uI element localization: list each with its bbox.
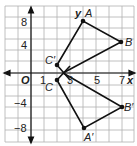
label-c: C — [45, 81, 53, 93]
coordinate-plane: 8 4 −4 −8 1 3 5 7 x y O A B C′ C B′ A′ — [0, 0, 137, 146]
point-a-prime — [82, 126, 87, 131]
label-a-prime: A′ — [83, 131, 94, 143]
y-tick-4: 4 — [21, 39, 27, 51]
label-c-prime: C′ — [45, 54, 56, 66]
origin-label: O — [21, 74, 30, 86]
triangle-abc — [57, 21, 121, 73]
label-a: A — [84, 7, 92, 19]
label-b-prime: B′ — [124, 101, 134, 113]
point-c-prime — [55, 63, 60, 68]
point-c — [55, 78, 60, 83]
y-tick-8: 8 — [21, 16, 27, 28]
x-axis-label: x — [126, 74, 134, 86]
y-tick-neg4: −4 — [14, 97, 27, 109]
y-axis-label: y — [74, 7, 82, 19]
y-axis-arrow-up-icon — [29, 7, 34, 13]
y-tick-neg8: −8 — [14, 122, 27, 134]
x-tick-5: 5 — [94, 74, 100, 86]
point-b — [119, 40, 124, 45]
label-b: B — [125, 36, 132, 48]
point-a — [81, 19, 86, 24]
x-tick-7: 7 — [119, 74, 125, 86]
x-tick-3: 3 — [67, 74, 73, 86]
